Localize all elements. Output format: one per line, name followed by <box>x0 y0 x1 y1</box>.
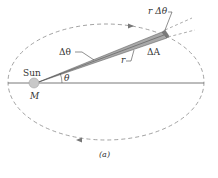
delta-a-label: ΔA <box>147 48 160 57</box>
radius-line <box>36 35 164 83</box>
figure-caption: (a) <box>99 151 110 159</box>
mass-label: M <box>30 92 39 101</box>
r-label: r <box>121 56 125 65</box>
swept-area-wedge <box>36 32 167 83</box>
delta-theta-leader <box>75 52 94 60</box>
sun-label: Sun <box>23 69 41 78</box>
orbit-direction-arrow-top <box>128 24 134 29</box>
sun-icon <box>29 78 39 88</box>
r-delta-theta-label: r Δθ <box>148 7 167 16</box>
theta-label: θ <box>64 74 69 83</box>
delta-theta-label: Δθ <box>59 48 71 57</box>
orbit-direction-arrow-bottom <box>76 138 82 143</box>
dashed-extension-lower <box>168 30 195 37</box>
